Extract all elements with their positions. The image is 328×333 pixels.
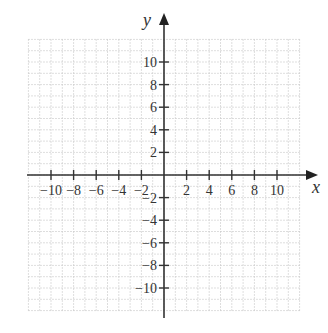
y-tick-label: −8 — [142, 258, 157, 273]
axes — [27, 13, 318, 318]
x-tick-label: 8 — [251, 183, 258, 198]
x-tick-label: 10 — [270, 183, 284, 198]
y-tick-label: −4 — [142, 213, 157, 228]
x-tick-label: −8 — [66, 183, 81, 198]
x-tick-label: 6 — [228, 183, 235, 198]
y-tick-label: −2 — [142, 191, 157, 206]
y-tick-label: 4 — [150, 123, 157, 138]
x-tick-label: −10 — [40, 183, 62, 198]
y-tick-label: −10 — [135, 281, 157, 296]
y-tick-label: 8 — [150, 78, 157, 93]
y-tick-label: 2 — [150, 145, 157, 160]
x-tick-label: −6 — [89, 183, 104, 198]
y-tick-label: 6 — [150, 100, 157, 115]
y-tick-label: 10 — [143, 55, 157, 70]
x-tick-label: 4 — [206, 183, 213, 198]
coordinate-plane: −10−8−6−4−2246810108642−2−4−6−8−10 x y — [0, 0, 328, 333]
x-tick-label: −4 — [111, 183, 126, 198]
y-axis-arrow-icon — [159, 13, 169, 25]
y-tick-label: −6 — [142, 236, 157, 251]
x-tick-label: 2 — [183, 183, 190, 198]
y-axis-label: y — [141, 10, 151, 30]
x-axis-label: x — [311, 177, 320, 197]
